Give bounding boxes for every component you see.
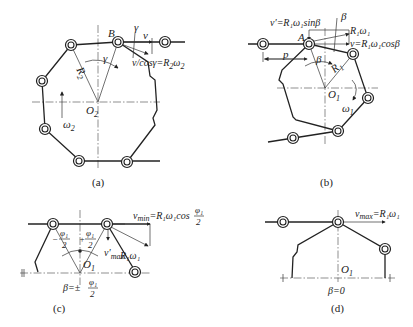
radius-line-B [98,42,118,102]
chain-roller [288,133,299,144]
chain-roller [74,156,85,167]
chain-roller [380,244,391,255]
label-minus-sign: − [52,234,58,244]
panel-d: vmax=R₁ω₁ O1 β=0 (d) [265,208,400,315]
chain-roller [333,217,344,228]
chain-roller [37,76,48,87]
label-minus-phi-num: φ₁ [60,228,68,238]
label-O2: O2 [86,104,98,119]
label-plus-sign: + [79,234,85,244]
label-omega2: ω2 [63,118,75,133]
label-velocity-formula: v/cosγ=R2ω2 [132,57,184,71]
angle-gamma-arc [85,60,118,68]
radius-line [71,45,98,102]
chain-roller [160,37,171,48]
velocity-R1w1-arrow [309,34,349,42]
caption-c: (c) [53,302,66,315]
chain-roller [66,40,77,51]
label-beta-eq: β=± [62,282,81,293]
label-R1: R1 [327,59,346,78]
label-R1w1: R₁ω₁ [349,25,370,36]
caption-a: (a) [92,176,105,189]
label-beta-frac-num: φ₁ [89,277,97,287]
chain-roller-A [304,39,315,50]
label-pitch: p [282,48,289,60]
label-beta-top: β [340,10,347,22]
label-vmin-formula: vmin=R₁ω₁cos [133,210,190,223]
label-vmin-frac-den: 2 [196,217,201,227]
sprocket-outline [42,45,79,160]
caption-b: (b) [320,176,333,189]
chain-roller [122,157,133,168]
chain-roller [40,124,51,135]
chain-roller [363,93,374,104]
radius-line-A [309,44,325,88]
label-A: A [297,31,305,43]
label-beta-eq: β=0 [327,285,345,296]
label-O1: O1 [83,258,95,273]
label-vmax-formula: vmax=R₁ω₁ [355,208,400,221]
sprocket-outline-left [292,222,338,278]
panel-a: B O2 R2 γ γ v v/cosγ=R2ω2 ω2 (a) [32,21,185,189]
chain-roller [258,39,269,50]
velocity-component-box [309,30,349,44]
label-v-formula: v=R₁ω₁cosβ [350,38,400,49]
gamma-reference-line [133,33,135,58]
label-gamma-top: γ [134,21,139,33]
label-omega1: ω1 [342,102,354,117]
label-O1: O1 [328,88,340,103]
chain-roller [278,217,289,228]
panel-b: A O1 R1 p β β v′=R₁ω₁sinβ R₁ω₁ v=R₁ω₁cos… [248,10,400,189]
label-O1: O1 [341,263,353,278]
label-gamma: γ [103,52,108,64]
label-vprime-formula: v′=R₁ω₁sinβ [270,17,320,28]
label-R2: R2 [71,64,90,81]
label-vmin-frac-num: φ₁ [195,205,203,215]
label-v: v [143,29,148,41]
caption-d: (d) [331,302,344,315]
chain-span-bottom [268,131,338,142]
chain-roller [348,49,359,60]
label-beta-frac-den: 2 [90,289,95,299]
sprocket-outline-left [35,224,53,272]
chain-link [71,42,118,45]
sprocket-outline-right [107,224,135,271]
label-plus-phi-den: 2 [88,240,93,250]
omega1-arrow [352,80,356,100]
chain-roller [102,219,113,230]
chain-roller [48,219,59,230]
label-plus-phi-num: φ₁ [86,228,94,238]
label-beta: β [315,53,322,65]
chain-drive-velocity-diagram: B O2 R2 γ γ v v/cosγ=R2ω2 ω2 (a) [0,0,413,327]
label-minus-phi-den: 2 [62,240,67,250]
chain-roller [333,126,344,137]
label-B: B [108,27,115,39]
panel-c: vmin=R₁ω₁cos φ₁ 2 φ₁ − 2 φ₁ + 2 R₁ω₁ v′m… [20,205,204,315]
beta-reference-line [334,18,337,52]
chain-roller [130,267,141,278]
